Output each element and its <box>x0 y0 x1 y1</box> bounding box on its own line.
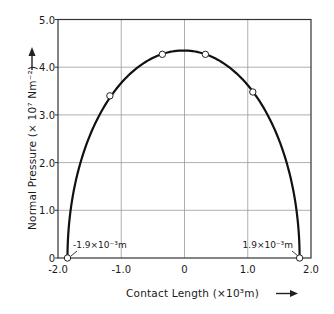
x-tick-label: 1.0 <box>240 264 256 275</box>
annotation-left-arrow <box>71 251 77 256</box>
x-tick-label: 0 <box>181 264 187 275</box>
data-point-marker <box>202 51 208 57</box>
data-point-markers <box>64 51 303 261</box>
annotation-right-text: 1.9×10⁻³m <box>243 240 293 250</box>
pressure-curve <box>67 51 299 258</box>
pressure-chart: -2.0-1.001.02.0 01.02.03.04.05.0 -1.9×10… <box>0 0 334 314</box>
y-tick-label: 1.0 <box>39 205 55 216</box>
x-axis-arrow-icon <box>276 290 298 297</box>
x-axis-label: Contact Length (×10³m) <box>126 287 259 299</box>
y-axis-label-group: Normal Pressure (× 10⁷ Nm⁻²) <box>26 47 38 230</box>
y-axis-label: Normal Pressure (× 10⁷ Nm⁻²) <box>26 66 38 230</box>
annotation-left: -1.9×10⁻³m <box>71 240 127 256</box>
grid-lines <box>58 20 311 259</box>
data-point-marker <box>159 51 165 57</box>
data-point-marker <box>64 255 70 261</box>
x-tick-label: -1.0 <box>111 264 131 275</box>
data-point-marker <box>250 89 256 95</box>
annotation-right: 1.9×10⁻³m <box>243 240 298 256</box>
x-tick-labels: -2.0-1.001.02.0 <box>48 264 319 275</box>
annotation-right-arrow <box>292 251 298 256</box>
y-tick-label: 4.0 <box>39 62 55 73</box>
x-tick-label: 2.0 <box>303 264 319 275</box>
x-tick-label: -2.0 <box>48 264 68 275</box>
y-tick-label: 0 <box>49 253 55 264</box>
y-tick-label: 3.0 <box>39 110 55 121</box>
x-axis-label-group: Contact Length (×10³m) <box>126 287 298 299</box>
data-point-marker <box>107 93 113 99</box>
y-tick-label: 5.0 <box>39 15 55 26</box>
y-tick-label: 2.0 <box>39 158 55 169</box>
y-tick-labels: 01.02.03.04.05.0 <box>39 15 58 265</box>
annotation-left-text: -1.9×10⁻³m <box>73 240 127 250</box>
